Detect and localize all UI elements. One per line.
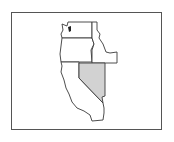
western-us-map xyxy=(0,0,174,142)
state-oregon[interactable] xyxy=(60,38,94,62)
state-idaho[interactable] xyxy=(92,22,117,63)
state-washington[interactable] xyxy=(61,22,92,38)
